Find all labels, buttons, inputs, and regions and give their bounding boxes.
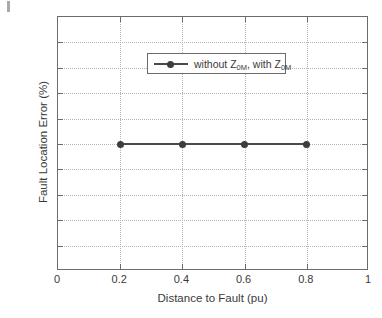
gridline-horizontal	[58, 93, 367, 94]
y-tick-mark	[362, 195, 367, 196]
series-marker	[241, 141, 248, 148]
series-marker	[303, 141, 310, 148]
x-axis-title: Distance to Fault (pu)	[57, 292, 368, 304]
x-tick-mark	[120, 17, 121, 22]
x-tick-label: 1	[365, 274, 371, 285]
x-tick-mark	[182, 17, 183, 22]
y-tick-mark	[362, 42, 367, 43]
y-tick-mark	[58, 169, 63, 170]
y-tick-mark	[58, 93, 63, 94]
x-tick-mark	[245, 17, 246, 22]
y-tick-mark	[362, 119, 367, 120]
x-tick-mark	[120, 264, 121, 269]
gridline-horizontal	[58, 246, 367, 247]
series-marker	[117, 141, 124, 148]
series-marker	[179, 141, 186, 148]
y-tick-mark	[362, 169, 367, 170]
gridline-horizontal	[58, 195, 367, 196]
y-tick-mark	[58, 195, 63, 196]
y-tick-mark	[58, 246, 63, 247]
legend-text-middle: , with Z	[247, 58, 281, 70]
series-line-zero-error	[120, 143, 307, 145]
legend-entry-label: without Z0M, with Z0M	[194, 58, 291, 72]
gridline-horizontal	[58, 119, 367, 120]
x-tick-mark	[307, 264, 308, 269]
y-tick-mark	[362, 246, 367, 247]
chart-figure: 1 0.8 0.6 0.4 0.2 0 -0.2 -0.4 -0.6 -0.8 …	[0, 0, 382, 318]
gridline-horizontal	[58, 220, 367, 221]
chart-legend[interactable]: without Z0M, with Z0M	[147, 53, 286, 74]
x-tick-label: 0	[54, 274, 60, 285]
legend-text-prefix: without Z	[194, 58, 237, 70]
legend-sample-marker-icon	[167, 61, 174, 68]
y-tick-mark	[58, 42, 63, 43]
y-axis-title: Fault Location Error (%)	[37, 15, 49, 269]
x-tick-mark	[182, 264, 183, 269]
y-tick-mark	[58, 220, 63, 221]
y-tick-mark	[58, 144, 63, 145]
x-tick-mark	[245, 264, 246, 269]
x-tick-label: 0.8	[298, 274, 313, 285]
legend-subscript-2: 0M	[281, 63, 291, 72]
y-tick-mark	[58, 119, 63, 120]
y-tick-mark	[362, 144, 367, 145]
gridline-horizontal	[58, 42, 367, 43]
y-tick-mark	[362, 220, 367, 221]
x-tick-mark	[307, 17, 308, 22]
x-axis-tick-labels: 0 0.2 0.4 0.6 0.8 1	[0, 274, 382, 290]
y-tick-mark	[362, 93, 367, 94]
y-tick-mark	[58, 68, 63, 69]
y-tick-mark	[362, 68, 367, 69]
x-tick-label: 0.2	[112, 274, 127, 285]
gridline-horizontal	[58, 169, 367, 170]
x-tick-label: 0.6	[236, 274, 251, 285]
legend-subscript-1: 0M	[237, 63, 247, 72]
x-tick-label: 0.4	[174, 274, 189, 285]
